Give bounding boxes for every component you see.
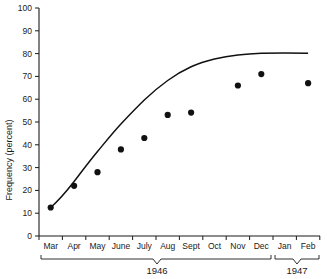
x-tick-label-nov: Nov	[230, 241, 246, 251]
fitted-curve-main	[51, 53, 308, 208]
data-point-july	[141, 135, 147, 141]
x-tick-label-jan: Jan	[278, 241, 292, 251]
x-tick-label-feb: Feb	[301, 241, 316, 251]
y-tick-label-70: 70	[23, 71, 33, 81]
data-point-dec	[258, 71, 264, 77]
x-tick-label-dec: Dec	[254, 241, 270, 251]
data-point-june	[118, 146, 124, 152]
x-axis: Mar Apr May June July Aug Sept Oct Nov D…	[39, 236, 320, 251]
bracket-1946	[41, 255, 271, 264]
y-tick-label-0: 0	[27, 231, 32, 241]
data-point-nov	[235, 82, 241, 88]
group-label-1946: 1946	[146, 265, 167, 276]
y-tick-label-90: 90	[23, 26, 33, 36]
year-brackets: 1946 1947	[41, 255, 319, 276]
group-label-1947: 1947	[286, 265, 307, 276]
data-point-aug	[165, 112, 171, 118]
y-tick-label-10: 10	[23, 208, 33, 218]
y-tick-label-40: 40	[23, 140, 33, 150]
y-tick-label-60: 60	[23, 94, 33, 104]
x-tick-group	[39, 236, 320, 240]
x-tick-label-oct: Oct	[208, 241, 222, 251]
x-tick-label-mar: Mar	[43, 241, 58, 251]
y-tick-label-30: 30	[23, 163, 33, 173]
data-point-feb	[305, 80, 311, 86]
x-tick-label-apr: Apr	[67, 241, 80, 251]
chart-svg: Frequency (percent) 100 90 80 70 60	[0, 0, 327, 279]
y-tick-label-100: 100	[18, 3, 32, 13]
x-tick-label-july: July	[137, 241, 153, 251]
y-axis: 100 90 80 70 60 50 40 30 20 10 0	[18, 3, 39, 241]
bracket-1947	[275, 255, 319, 264]
y-axis-title: Frequency (percent)	[4, 119, 14, 200]
y-tick-label-50: 50	[23, 117, 33, 127]
chart-figure: Frequency (percent) 100 90 80 70 60	[0, 0, 327, 279]
x-tick-label-sept: Sept	[182, 241, 200, 251]
x-tick-label-june: June	[112, 241, 131, 251]
y-tick-label-80: 80	[23, 49, 33, 59]
y-tick-group	[35, 8, 39, 236]
data-points	[48, 71, 312, 211]
x-tick-label-may: May	[89, 241, 106, 251]
x-tick-label-aug: Aug	[160, 241, 175, 251]
data-point-mar	[48, 204, 54, 210]
data-point-may	[94, 169, 100, 175]
data-point-apr	[71, 183, 77, 189]
y-tick-label-20: 20	[23, 185, 33, 195]
data-point-sept	[188, 110, 194, 116]
